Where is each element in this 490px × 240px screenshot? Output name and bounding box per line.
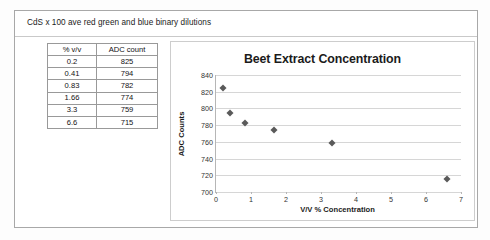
x-tick-mark — [391, 192, 392, 194]
table-header-row: % v/v ADC count — [48, 44, 158, 56]
table-row: 0.41 794 — [48, 68, 158, 80]
data-point-marker — [227, 110, 234, 117]
cell-adc: 715 — [97, 116, 158, 128]
y-tick-label: 800 — [201, 104, 213, 113]
document-frame: CdS x 100 ave red green and blue binary … — [14, 10, 478, 228]
data-point-marker — [443, 176, 450, 183]
cell-percent: 1.66 — [48, 92, 97, 104]
table-row: 0.2 825 — [48, 56, 158, 68]
y-tick-label: 840 — [201, 71, 213, 80]
gridline-horizontal — [216, 75, 461, 76]
cell-percent: 3.3 — [48, 104, 97, 116]
x-tick-mark — [461, 192, 462, 194]
x-tick-label: 1 — [249, 195, 253, 204]
y-tick-label: 820 — [201, 87, 213, 96]
y-tick-label: 740 — [201, 154, 213, 163]
data-point-marker — [328, 139, 335, 146]
caption-divider — [15, 36, 477, 37]
x-tick-label: 5 — [389, 195, 393, 204]
x-tick-label: 6 — [424, 195, 428, 204]
x-tick-mark — [216, 192, 217, 194]
cell-adc: 782 — [97, 80, 158, 92]
table-header-adc: ADC count — [97, 44, 158, 56]
cell-adc: 774 — [97, 92, 158, 104]
x-tick-label: 2 — [284, 195, 288, 204]
x-tick-label: 3 — [319, 195, 323, 204]
plot-area: 70072074076078080082084001234567 — [215, 75, 461, 193]
x-tick-label: 4 — [354, 195, 358, 204]
gridline-horizontal — [216, 92, 461, 93]
gridline-horizontal — [216, 159, 461, 160]
x-tick-mark — [251, 192, 252, 194]
x-axis-title: V/V % Concentration — [215, 205, 460, 214]
chart-panel: Beet Extract Concentration ADC Counts 70… — [170, 41, 475, 221]
cell-percent: 0.83 — [48, 80, 97, 92]
gridline-horizontal — [216, 108, 461, 109]
y-tick-label: 720 — [201, 171, 213, 180]
gridline-horizontal — [216, 175, 461, 176]
y-tick-label: 780 — [201, 121, 213, 130]
y-axis-title: ADC Counts — [177, 112, 186, 157]
data-point-marker — [219, 84, 226, 91]
x-tick-mark — [321, 192, 322, 194]
cell-adc: 794 — [97, 68, 158, 80]
gridline-horizontal — [216, 142, 461, 143]
table-row: 0.83 782 — [48, 80, 158, 92]
y-tick-label: 700 — [201, 188, 213, 197]
y-tick-label: 760 — [201, 137, 213, 146]
gridline-horizontal — [216, 125, 461, 126]
cell-adc: 759 — [97, 104, 158, 116]
cell-adc: 825 — [97, 56, 158, 68]
data-table: % v/v ADC count 0.2 825 0.41 794 0.83 78… — [47, 43, 158, 129]
x-tick-label: 7 — [459, 195, 463, 204]
x-tick-mark — [286, 192, 287, 194]
cell-percent: 6.6 — [48, 116, 97, 128]
gridline-horizontal — [216, 192, 461, 193]
x-tick-label: 0 — [214, 195, 218, 204]
data-point-marker — [271, 127, 278, 134]
table-row: 3.3 759 — [48, 104, 158, 116]
chart-title: Beet Extract Concentration — [171, 52, 474, 66]
table-row: 6.6 715 — [48, 116, 158, 128]
table-header-percent: % v/v — [48, 44, 97, 56]
cell-percent: 0.2 — [48, 56, 97, 68]
document-caption: CdS x 100 ave red green and blue binary … — [27, 18, 211, 27]
table-row: 1.66 774 — [48, 92, 158, 104]
screenshot-canvas: CdS x 100 ave red green and blue binary … — [0, 0, 490, 240]
x-tick-mark — [426, 192, 427, 194]
cell-percent: 0.41 — [48, 68, 97, 80]
x-tick-mark — [356, 192, 357, 194]
